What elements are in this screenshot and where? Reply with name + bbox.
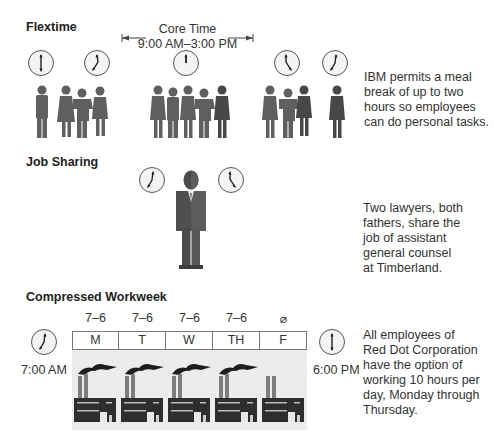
day-cell-wednesday: W [165,331,213,350]
description-line: Two lawyers, both [363,201,493,216]
description-line: break of up to two [364,85,494,100]
description-line: fathers, share the [363,216,493,231]
description-line: Thursday. [363,403,494,418]
job-sharing-description: Two lawyers, both fathers, share the job… [363,201,493,276]
description-line: working 10 hours per [363,373,494,388]
description-line: can do personal tasks. [364,115,494,130]
description-line: IBM permits a meal [364,70,494,85]
description-line: All employees of [363,328,494,343]
factory-idle-icon [262,360,308,426]
core-time-range: 9:00 AM–3:00 PM [120,37,255,51]
clock-icon [274,50,300,76]
clock-icon [173,50,199,76]
clock-icon [84,50,110,76]
description-line: general counsel [363,246,493,261]
clock-icon [218,167,244,193]
day-cell-tuesday: T [118,331,166,350]
factory-operating-icon [215,360,261,426]
end-time-label: 6:00 PM [313,363,360,377]
day-hours: 7–6 [119,311,166,325]
day-cell-thursday: TH [212,331,260,350]
employee-group-icon [150,84,232,140]
flextime-description: IBM permits a meal break of up to two ho… [364,70,494,130]
day-cell-friday: F [259,331,307,350]
factory-operating-icon [168,360,214,426]
workweek-schedule: 7–6 7–6 7–6 7–6 ⌀ M T W TH F [72,308,307,433]
factory-operating-icon [74,360,120,426]
description-line: hours so employees [364,100,494,115]
day-hours: 7–6 [72,311,119,325]
clock-icon [28,50,54,76]
day-cell-monday: M [72,331,119,350]
start-time-label: 7:00 AM [21,363,67,377]
flextime-heading: Flextime [26,20,77,34]
job-sharing-heading: Job Sharing [26,155,98,169]
day-hours: 7–6 [213,311,260,325]
compressed-workweek-description: All employees of Red Dot Corporation hav… [363,328,494,418]
description-line: at Timberland. [363,261,493,276]
compressed-workweek-heading: Compressed Workweek [26,290,167,304]
core-time-bracket: Core Time 9:00 AM–3:00 PM [120,10,255,42]
businessman-icon [174,170,208,270]
day-hours: 7–6 [166,311,213,325]
employee-group-icon [30,84,112,140]
day-off-symbol: ⌀ [260,311,307,326]
description-line: job of assistant [363,231,493,246]
clock-icon [322,50,348,76]
factory-operating-icon [121,360,167,426]
description-line: have the option of [363,358,494,373]
employee-group-icon [262,84,352,140]
start-clock-icon [31,329,57,355]
core-time-label: Core Time [120,22,255,36]
description-line: day, Monday through [363,388,494,403]
end-clock-icon [319,329,345,355]
clock-icon [139,167,165,193]
description-line: Red Dot Corporation [363,343,494,358]
